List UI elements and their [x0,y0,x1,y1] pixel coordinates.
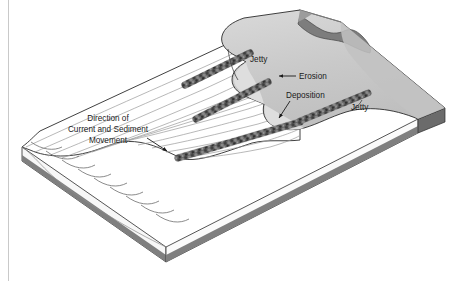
block-front-left-face [22,147,166,262]
current-label-line1: Direction of [87,114,129,123]
deposition-label: Deposition [286,91,325,100]
current-label-line2: Current and Sediment [68,125,149,134]
erosion-label: Erosion [299,72,327,81]
current-label-line3: Movement [89,136,128,145]
jetty-upper-label: Jetty [250,55,268,64]
coastal-jetty-diagram: Jetty Erosion Deposition Jetty Direction… [0,0,460,281]
wave-scallops [22,142,189,247]
jetty-lower-label: Jetty [351,103,369,112]
